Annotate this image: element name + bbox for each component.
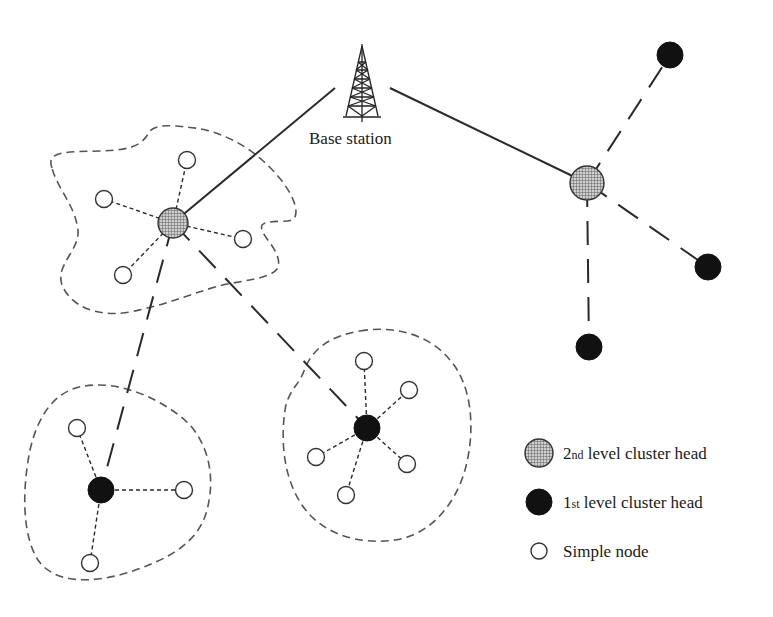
simple-nodes — [69, 152, 418, 572]
first-level-head-legend-icon — [526, 489, 552, 515]
link-base-to-left-l2 — [173, 88, 335, 223]
first-level-cluster-head — [88, 477, 114, 503]
link-l2b-l1e — [587, 183, 589, 347]
first-level-cluster-head — [354, 415, 380, 441]
link-l2a-l1b — [173, 223, 367, 428]
second-level-heads — [158, 166, 604, 238]
first-level-heads — [88, 42, 721, 503]
legend-item-simple-node: Simple node — [531, 542, 648, 561]
simple-node — [115, 267, 132, 284]
legend-label-first-level: 1st level cluster head — [563, 493, 703, 512]
second-to-first-level-links — [101, 55, 708, 490]
legend-item-first-level: 1st level cluster head — [526, 489, 703, 515]
simple-node — [308, 449, 325, 466]
simple-node — [176, 482, 193, 499]
cluster-boundaries — [25, 126, 471, 580]
legend: 2nd level cluster head 1st level cluster… — [525, 439, 707, 561]
simple-node — [96, 191, 113, 208]
radio-tower-icon — [343, 44, 381, 122]
simple-node — [235, 231, 252, 248]
simple-node-legend-icon — [531, 543, 547, 559]
link-l2a-l1a — [101, 223, 173, 490]
second-level-cluster-head — [570, 166, 604, 200]
simple-node — [401, 382, 418, 399]
second-level-head-legend-icon — [525, 439, 553, 467]
simple-node — [179, 152, 196, 169]
cluster-diagram: Base station 2nd level cluster head — [0, 0, 773, 617]
second-level-cluster-head — [158, 208, 188, 238]
link-l2b-l1c — [587, 55, 670, 183]
link-l2b-l1d — [587, 183, 708, 267]
simple-node — [399, 456, 416, 473]
first-level-cluster-head — [576, 334, 602, 360]
first-level-cluster-head — [657, 42, 683, 68]
base-station-label: Base station — [309, 129, 392, 148]
legend-item-second-level: 2nd level cluster head — [525, 439, 707, 467]
simple-node — [69, 420, 86, 437]
first-level-cluster-head — [695, 254, 721, 280]
simple-node — [82, 555, 99, 572]
legend-label-simple-node: Simple node — [563, 542, 648, 561]
link-base-to-right-l2 — [390, 88, 587, 183]
legend-label-second-level: 2nd level cluster head — [563, 444, 707, 463]
base-station-links — [173, 88, 587, 223]
simple-node — [356, 353, 373, 370]
simple-node — [338, 487, 355, 504]
